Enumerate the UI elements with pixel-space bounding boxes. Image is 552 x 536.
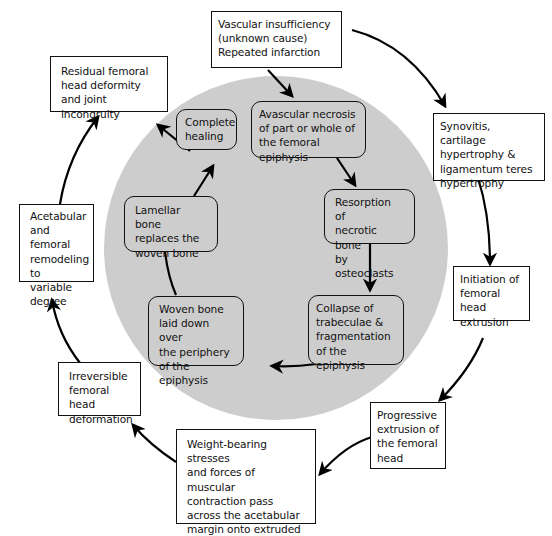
diagram-canvas: Vascular insufficiency (unknown cause) R…: [0, 0, 552, 536]
arrow-weight-to-irreversible: [133, 425, 176, 462]
node-weight-bearing: Weight-bearing stresses and forces of mu…: [176, 429, 316, 524]
node-complete-healing: Complete healing: [176, 109, 237, 150]
node-resorption: Resorption of necrotic bone by osteoclas…: [324, 189, 415, 244]
node-collapse: Collapse of trabeculae & fragmentation o…: [308, 295, 404, 365]
node-irreversible-deformation: Irreversible femoral head deformation: [58, 362, 141, 416]
node-avascular-necrosis: Avascular necrosis of part or whole of t…: [251, 101, 366, 158]
node-vascular-insufficiency: Vascular insufficiency (unknown cause) R…: [211, 11, 342, 68]
arrow-lamellar-to-healing: [194, 166, 213, 196]
node-lamellar-bone: Lamellar bone replaces the woven bone: [124, 196, 218, 252]
arrow-avascular-to-resorption: [337, 158, 355, 185]
node-residual-deformity: Residual femoral head deformity and join…: [50, 56, 168, 112]
arrow-vascular-to-synovitis: [352, 30, 445, 106]
arrow-initiation-to-progressive: [440, 338, 483, 400]
node-acetabular-remodeling: Acetabular and femoral remodeling to var…: [19, 204, 94, 282]
node-synovitis: Synovitis, cartilage hypertrophy & ligam…: [433, 113, 545, 181]
arrow-irreversible-to-acetabular: [52, 300, 80, 363]
arrow-vascular-to-avascular: [268, 70, 292, 96]
node-initiation-extrusion: Initiation of femoral head extrusion: [453, 266, 530, 321]
arrow-progressive-to-weight: [320, 437, 372, 474]
arrow-acetabular-to-residual: [60, 117, 98, 204]
arrow-synovitis-to-initiation: [478, 178, 490, 264]
node-progressive-extrusion: Progressive extrusion of the femoral hea…: [370, 402, 446, 469]
node-woven-bone: Woven bone laid down over the periphery …: [148, 296, 244, 366]
